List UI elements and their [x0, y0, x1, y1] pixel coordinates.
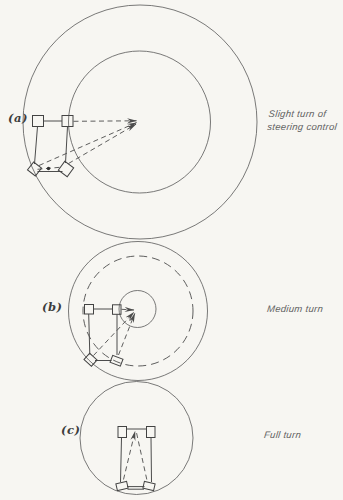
figure-a-inner-turning-circle — [69, 51, 211, 193]
figure-a-axle-midpoint-dot — [47, 167, 50, 170]
figure-a-caption-line-1: Slight turn of — [268, 108, 339, 121]
figure-a — [23, 5, 257, 239]
figure-a-right-body-line — [66, 127, 68, 164]
figure-c-rear-right-wheel — [147, 427, 156, 438]
figure-c-rear-left-wheel — [118, 427, 127, 438]
figure-a-caption-line-2: steering control — [267, 121, 338, 134]
figure-b — [69, 242, 208, 381]
figure-c-front-left-wheel-radius-dashed-line — [124, 431, 136, 479]
figure-a-label: (a) — [8, 111, 28, 125]
figure-b-dashed-inner-wheel-path-circle — [83, 256, 193, 366]
figure-b-front-left-wheel-steered — [84, 353, 97, 366]
figure-c-right-body-line — [151, 438, 152, 483]
scanned-diagram-page: (a) (b) (c) Slight turn of steering cont… — [0, 0, 343, 500]
figure-c-caption: Full turn — [263, 429, 301, 442]
figure-b-rear-axle-radius-dashed-line — [122, 309, 135, 310]
figure-c-front-right-wheel-radius-dashed-line — [136, 431, 147, 479]
figure-b-front-right-wheel-steered — [110, 355, 123, 366]
figure-c-label: (c) — [61, 423, 80, 437]
figure-c-turning-circle — [80, 382, 193, 495]
figure-c — [80, 382, 193, 495]
figure-a-rear-left-wheel — [33, 116, 44, 127]
figure-c-left-body-line — [121, 438, 122, 483]
figure-b-left-body-line — [89, 314, 90, 355]
figure-a-rear-right-wheel — [62, 116, 73, 127]
figure-b-front-right-wheel-radius-dashed-line — [119, 313, 135, 355]
figure-c-front-left-wheel-steered — [116, 481, 128, 490]
figure-b-outer-turning-circle — [69, 242, 208, 381]
figure-a-rear-axle-radius-dashed-line — [74, 121, 137, 122]
figure-b-caption: Medium turn — [266, 303, 323, 316]
figure-a-caption: Slight turn of steering control — [267, 108, 339, 133]
figure-a-front-right-wheel-steered — [58, 161, 73, 176]
figure-a-front-left-wheel-radius-dashed-line — [39, 123, 137, 166]
figure-b-front-left-wheel-radius-dashed-line — [94, 312, 135, 355]
figure-a-outer-turning-circle — [23, 5, 257, 239]
figure-a-left-body-line — [35, 127, 38, 165]
figure-c-front-right-wheel-steered — [143, 481, 155, 490]
figure-b-rear-left-wheel — [85, 305, 94, 315]
figure-b-label: (b) — [42, 300, 62, 314]
turning-circles-diagram — [0, 0, 343, 500]
figure-a-front-right-wheel-radius-dashed-line — [69, 124, 137, 163]
